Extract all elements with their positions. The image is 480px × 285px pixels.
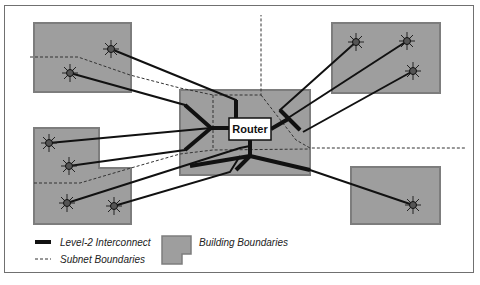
legend-building-label: Building Boundaries: [199, 237, 288, 248]
router-label: Router: [232, 123, 268, 135]
node-icon: [59, 194, 75, 212]
node-icon: [62, 64, 78, 82]
node-icon: [348, 33, 364, 51]
node-icon: [41, 134, 57, 152]
building-legend-icon: [162, 236, 191, 264]
router: Router: [229, 118, 271, 140]
building-bottom-right: [351, 167, 440, 224]
node-icon: [405, 62, 421, 80]
node-icon: [399, 32, 415, 50]
building-top-right: [332, 23, 440, 93]
node-icon: [106, 197, 122, 215]
node-icon: [405, 196, 421, 214]
network-diagram: Router Level-2 Interconnect Subnet Bound…: [0, 0, 480, 285]
building-top-left: [34, 23, 131, 92]
legend: Level-2 Interconnect Subnet Boundaries B…: [35, 236, 288, 265]
node-icon: [103, 40, 119, 58]
legend-subnet-label: Subnet Boundaries: [60, 254, 145, 265]
node-icon: [61, 157, 77, 175]
legend-interconnect-label: Level-2 Interconnect: [60, 237, 152, 248]
interconnect-legend-icon: [35, 240, 51, 244]
